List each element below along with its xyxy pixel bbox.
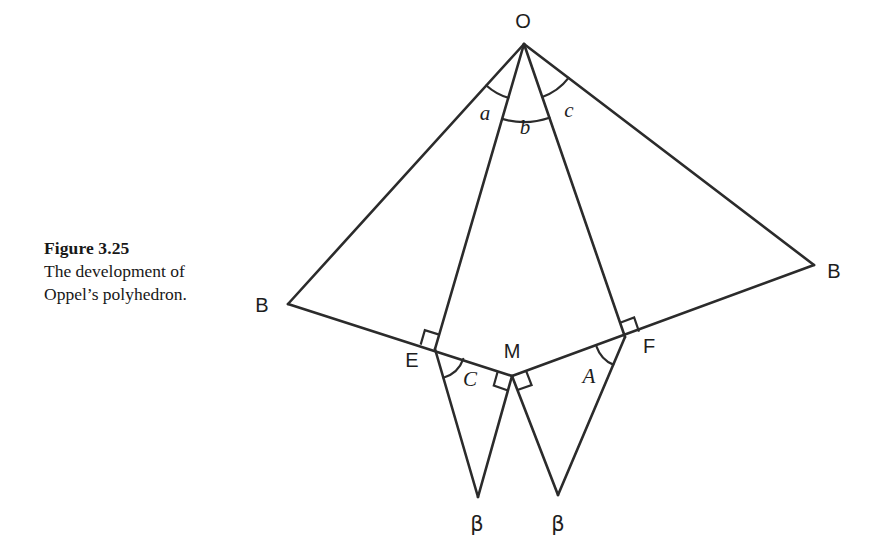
angle-arc-A (597, 347, 614, 365)
vertex-labels: OBBEMFββ (255, 10, 840, 536)
edge-m-to-b-right (512, 265, 814, 376)
edge-o-to-e (435, 44, 524, 349)
angle-label-A: A (581, 364, 596, 388)
edge-o-to-f (524, 44, 625, 337)
vertex-label-bright: B (827, 260, 840, 282)
edge-beta-left-to-m (478, 376, 512, 497)
edge-beta-right-to-f (558, 337, 625, 495)
figure-page: Figure 3.25 The development of Oppel’s p… (0, 0, 872, 559)
edge-o-to-b-left (288, 44, 524, 304)
vertex-label-o: O (515, 10, 531, 32)
net-edges (288, 44, 814, 497)
vertex-label-m: M (504, 340, 521, 362)
vertex-label-f: F (643, 335, 655, 357)
vertex-label-bleft: B (255, 294, 268, 316)
vertex-label-betaleft: β (470, 512, 483, 536)
angle-label-C: C (463, 367, 478, 391)
angle-label-c: c (564, 98, 574, 122)
angle-label-b: b (520, 115, 531, 139)
angle-arc-a (486, 85, 508, 97)
angle-labels: abcCA (463, 98, 596, 391)
vertex-label-betaright: β (551, 512, 564, 536)
angle-label-a: a (480, 101, 491, 125)
vertex-label-e: E (405, 349, 418, 371)
angle-arc-C (443, 359, 463, 378)
oppel-polyhedron-development-diagram: OBBEMFββ abcCA (0, 0, 872, 559)
edge-b-left-to-m (288, 304, 512, 376)
angle-arc-c (542, 78, 568, 97)
edge-m-to-beta-right (512, 376, 558, 495)
edge-o-to-b-right (524, 44, 814, 265)
